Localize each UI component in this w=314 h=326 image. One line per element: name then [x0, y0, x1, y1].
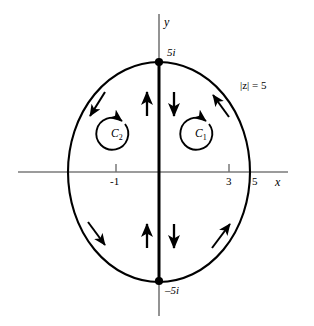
label-5i-text: 5i: [167, 46, 176, 58]
label-5i: 5i: [167, 47, 176, 58]
x-axis-label: x: [275, 176, 280, 188]
circle-equation-label: |z| = 5: [240, 80, 267, 91]
point-5i: [155, 58, 163, 66]
x-tick-label-minus-1: -1: [110, 176, 119, 187]
x-tick-label-5: 5: [252, 176, 258, 187]
circle-equation-text: |z| = 5: [240, 79, 267, 91]
contour-label-c2-name: C: [111, 127, 119, 139]
contour-label-c2: C2: [111, 128, 123, 142]
arrow-lower-left-arc: [88, 222, 105, 245]
point-minus-5i: [155, 277, 163, 285]
contour-label-c2-index: 2: [119, 133, 123, 142]
contour-label-c1-name: C: [195, 127, 203, 139]
diagram-canvas: [0, 0, 314, 326]
label-minus-5i-text: –5i: [165, 284, 179, 296]
contour-label-c1: C1: [195, 128, 207, 142]
y-axis-label: y: [164, 16, 169, 28]
label-minus-5i: –5i: [165, 285, 179, 296]
x-tick-label-3: 3: [226, 176, 232, 187]
complex-plane-diagram: y x 5i –5i |z| = 5 -1 3 5 C1 C2: [0, 0, 314, 326]
contour-label-c1-index: 1: [203, 133, 207, 142]
